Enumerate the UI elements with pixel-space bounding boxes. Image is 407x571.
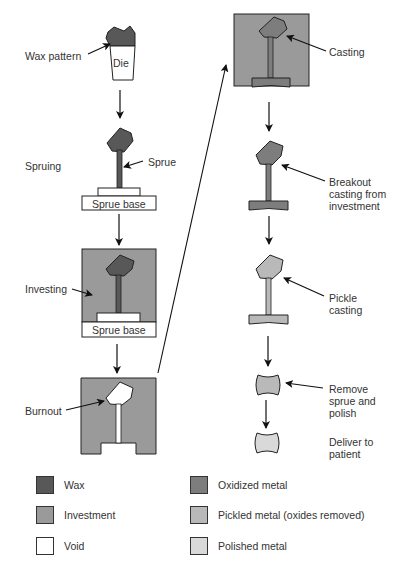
label-breakout: Breakout casting from investment [329, 176, 386, 212]
arrow-pickle [284, 278, 324, 296]
label-pickle: Pickle casting [329, 292, 362, 316]
polished-crown [256, 375, 280, 395]
label-breakout-line3: investment [329, 200, 386, 212]
label-remove: Remove sprue and polish [329, 383, 376, 419]
pickled-casting [249, 255, 288, 324]
arrow-breakout [282, 165, 325, 181]
swatch-wax [36, 476, 54, 494]
label-remove-line1: Remove [329, 383, 376, 395]
legend-label: Oxidized metal [218, 479, 287, 491]
swatch-polished-metal [190, 537, 208, 555]
swatch-void [36, 537, 54, 555]
legend-item-investment: Investment [36, 506, 115, 524]
label-casting: Casting [329, 46, 365, 58]
label-spruing: Spruing [25, 160, 61, 172]
label-breakout-line2: casting from [329, 188, 386, 200]
label-sprue: Sprue [148, 156, 176, 168]
arrow-remove [286, 383, 323, 388]
legend-label: Void [64, 540, 84, 552]
label-investing: Investing [25, 283, 67, 295]
label-pickle-line1: Pickle [329, 292, 362, 304]
legend-item-void: Void [36, 537, 84, 555]
legend-item-pickled-metal: Pickled metal (oxides removed) [190, 506, 364, 524]
label-breakout-line1: Breakout [329, 176, 386, 188]
label-burnout: Burnout [25, 405, 62, 417]
swatch-oxidized-metal [190, 476, 208, 494]
breakout-casting [249, 141, 288, 210]
legend-item-oxidized-metal: Oxidized metal [190, 476, 287, 494]
legend-item-polished-metal: Polished metal [190, 537, 287, 555]
swatch-pickled-metal [190, 506, 208, 524]
cast-in-investment [234, 14, 309, 87]
legend-label: Investment [64, 509, 115, 521]
label-remove-line3: polish [329, 407, 376, 419]
label-remove-line2: sprue and [329, 395, 376, 407]
arrow-sprue [124, 161, 143, 167]
legend-label: Polished metal [218, 540, 287, 552]
label-deliver-line1: Deliver to [329, 436, 373, 448]
label-sprue-base-1: Sprue base [92, 198, 146, 210]
label-wax-pattern: Wax pattern [25, 50, 81, 62]
swatch-investment [36, 506, 54, 524]
flow-arrow-burnout-to-casting [158, 65, 226, 373]
burnout-mold [81, 378, 156, 454]
label-deliver: Deliver to patient [329, 436, 373, 460]
wax-pattern-on-die [106, 26, 135, 80]
legend-label: Pickled metal (oxides removed) [218, 509, 364, 521]
label-deliver-line2: patient [329, 448, 373, 460]
label-sprue-base-2: Sprue base [92, 324, 146, 336]
legend-item-wax: Wax [36, 476, 85, 494]
label-pickle-line2: casting [329, 304, 362, 316]
label-die: Die [113, 57, 129, 69]
final-crown [255, 433, 279, 453]
arrow-wax-pattern [88, 44, 110, 54]
legend-label: Wax [64, 479, 85, 491]
